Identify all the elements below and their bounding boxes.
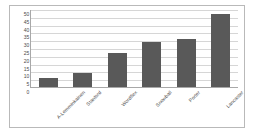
y-axis-tick-labels: 05101520253035404550 [13,10,29,88]
x-tick-slot: Lancaster [211,89,230,127]
y-tick-label: 10 [24,74,29,79]
bar [108,53,127,87]
bar-series [31,10,238,87]
y-tick-label: 15 [24,66,29,71]
x-tick-label: Lancaster [225,90,244,109]
y-tick-label: 50 [24,12,29,17]
x-axis-tick-labels: A-LemminkainenStanfordWordflexSnowballPo… [30,89,238,127]
y-tick-label: 35 [24,35,29,40]
x-tick-slot: Wordflex [107,89,126,127]
bar [142,42,161,87]
bar [177,39,196,87]
x-tick-slot: A-Lemminkainen [38,89,57,127]
x-tick-label: Stanford [86,90,103,107]
y-tick-label: 0 [26,90,29,95]
y-tick-label: 45 [24,19,29,24]
chart-frame: 05101520253035404550 A-LemminkainenStanf… [9,5,245,128]
y-tick-label: 25 [24,51,29,56]
x-tick-label: Snowball [155,90,173,108]
y-tick-label: 40 [24,27,29,32]
bar [211,14,230,87]
bar [73,73,92,87]
x-tick-label: Wordflex [120,90,137,107]
x-tick-label: Porter [188,90,201,103]
y-tick-label: 5 [26,82,29,87]
y-tick-label: 20 [24,58,29,63]
chart-plot-wrapper: 05101520253035404550 A-LemminkainenStanf… [10,6,244,127]
x-tick-slot: Porter [176,89,195,127]
bar [39,78,58,87]
plot-area [30,10,238,88]
x-tick-slot: Snowball [142,89,161,127]
x-tick-slot: Stanford [72,89,91,127]
y-tick-label: 30 [24,43,29,48]
